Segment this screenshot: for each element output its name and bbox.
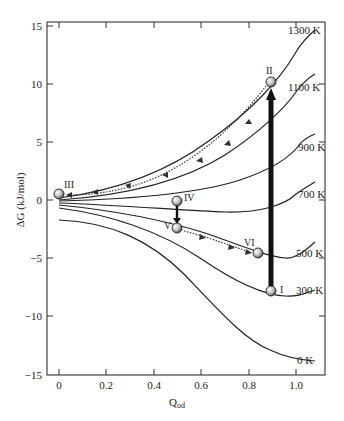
y-axis-ticks [47, 26, 325, 316]
dotted-arrowhead [162, 172, 168, 178]
state-label-vi: VI [244, 237, 255, 248]
x-axis-title: Qod [169, 396, 185, 410]
curve-label-900k: 900 K [298, 141, 325, 153]
state-label-v: V [164, 220, 172, 231]
y-tick-label: 15 [31, 20, 43, 32]
dotted-arrowhead [224, 140, 231, 146]
curve-label-700k: 700 K [298, 188, 325, 200]
x-tick-label: 1.0 [289, 379, 303, 391]
dotted-arrowhead [125, 183, 131, 189]
y-tick-label: 0 [37, 194, 43, 206]
curve-1100k [59, 74, 315, 200]
y-axis-title: ΔG (kJ/mol) [14, 172, 27, 227]
state-label-iii: III [64, 179, 74, 190]
curve-label-300k: 300 K [296, 284, 323, 296]
curve-label-500k: 500 K [296, 247, 323, 259]
x-tick-label: 0.8 [242, 379, 256, 391]
state-label-iv: IV [184, 192, 195, 203]
dotted-arrowhead [196, 157, 203, 163]
free-energy-chart: 15 10 5 0 −5 −10 −15 0 0.2 0.4 0.6 0.8 1… [0, 0, 344, 421]
state-point-v [172, 223, 182, 233]
y-tick-label: 10 [31, 78, 43, 90]
x-tick-label: 0 [56, 379, 62, 391]
curve-label-1300k: 1300 K [288, 24, 321, 36]
y-tick-label: −5 [30, 252, 42, 264]
curve-300k [59, 208, 315, 296]
dotted-arrowhead [245, 119, 252, 124]
state-label-i: I [280, 284, 283, 295]
dotted-arrow-v-to-vi [184, 231, 250, 252]
curve-label-0k: 0 K [297, 354, 313, 366]
y-tick-label: −15 [25, 369, 43, 381]
state-point-iii [54, 189, 64, 199]
curve-label-1100k: 1100 K [288, 81, 320, 93]
state-label-ii: II [266, 65, 273, 76]
curve-0k [59, 220, 315, 361]
y-tick-label: −10 [25, 310, 43, 322]
dotted-arrowhead [228, 244, 235, 250]
dotted-arrow-ii-to-iii [68, 86, 266, 195]
state-point-ii [266, 77, 276, 87]
y-tick-label: 5 [37, 136, 43, 148]
x-tick-label: 0.6 [194, 379, 208, 391]
state-point-vi [253, 248, 263, 258]
x-tick-label: 0.4 [147, 379, 161, 391]
state-point-i [266, 286, 276, 296]
x-axis-title-main: Q [169, 396, 177, 408]
x-tick-label: 0.2 [99, 379, 113, 391]
state-point-iv [172, 196, 182, 206]
x-axis-title-sub: od [177, 401, 185, 410]
